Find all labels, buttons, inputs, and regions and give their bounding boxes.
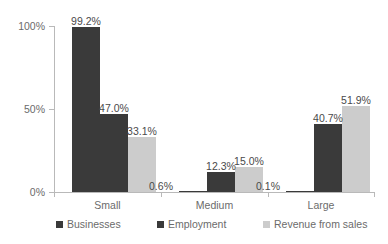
x-axis-tick — [268, 192, 269, 197]
value-label-large-employment: 40.7% — [306, 113, 350, 124]
x-axis-line — [54, 192, 374, 193]
value-label-small-businesses: 99.2% — [62, 16, 110, 27]
legend-label-employment: Employment — [168, 219, 226, 230]
bar-large-businesses — [286, 191, 314, 192]
value-label-small-employment: 47.0% — [92, 103, 136, 114]
legend-swatch-icon — [157, 221, 164, 228]
x-axis-category-label-large: Large — [268, 200, 374, 211]
x-axis-category-label-medium: Medium — [161, 200, 268, 211]
legend-swatch-icon — [263, 221, 270, 228]
grouped-bar-chart: 100% 50% 0% Small Medium Large — [0, 0, 388, 244]
legend-label-revenue-from-sales: Revenue from sales — [274, 219, 367, 230]
value-label-medium-revenue: 15.0% — [227, 156, 271, 167]
value-label-large-businesses: 0.1% — [248, 181, 288, 192]
plot-area: 100% 50% 0% Small Medium Large — [0, 0, 388, 205]
x-axis-category-label-small: Small — [54, 200, 161, 211]
bar-medium-employment — [207, 172, 235, 192]
value-label-small-revenue: 33.1% — [120, 126, 164, 137]
legend-swatch-icon — [56, 221, 63, 228]
bars-layer — [0, 0, 388, 192]
legend-item-revenue-from-sales[interactable]: Revenue from sales — [263, 219, 367, 230]
legend-label-businesses: Businesses — [67, 219, 121, 230]
legend-item-employment[interactable]: Employment — [157, 219, 226, 230]
value-label-large-revenue: 51.9% — [334, 95, 378, 106]
bar-medium-businesses — [179, 191, 207, 192]
bar-large-employment — [314, 124, 342, 192]
value-label-medium-businesses: 0.6% — [141, 181, 181, 192]
x-axis-tick — [161, 192, 162, 197]
legend-item-businesses[interactable]: Businesses — [56, 219, 121, 230]
x-axis-tick — [54, 192, 55, 197]
chart-legend: Businesses Employment Revenue from sales — [0, 219, 388, 235]
x-axis-tick — [374, 192, 375, 197]
